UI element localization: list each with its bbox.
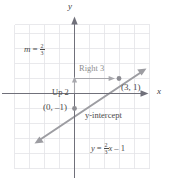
run-label: Right 3 xyxy=(79,64,104,73)
point-label-0-neg1: (0, –1) xyxy=(43,103,67,112)
equation-fraction: 23 xyxy=(104,142,109,156)
equation-annotation: y=23x– 1 xyxy=(91,142,125,156)
run-arrow xyxy=(75,76,115,81)
point-y-intercept xyxy=(72,106,77,111)
y-axis-arrowhead xyxy=(71,17,77,25)
y-axis-label: y xyxy=(68,2,72,11)
rise-label: Up 2 xyxy=(52,88,69,97)
equation-constant: – 1 xyxy=(112,143,125,153)
equation-equals: = xyxy=(95,143,104,153)
slope-symbol: m xyxy=(24,44,31,54)
slope-denominator: 3 xyxy=(40,49,45,56)
point-label-3-1: (3, 1) xyxy=(121,83,141,92)
coordinate-graph-figure: y x m=23 Right 3 Up 2 (3, 1) (0, –1) y-i… xyxy=(0,0,171,181)
slope-annotation: m=23 xyxy=(24,43,45,57)
point-3-1 xyxy=(117,76,122,81)
equation-denominator: 3 xyxy=(104,148,109,155)
x-axis-label: x xyxy=(157,87,161,96)
slope-fraction: 23 xyxy=(40,43,45,57)
y-intercept-note: y-intercept xyxy=(85,111,122,120)
graph-canvas xyxy=(0,0,171,181)
x-axis-arrowhead xyxy=(141,90,149,96)
slope-equals-sign: = xyxy=(31,44,40,54)
